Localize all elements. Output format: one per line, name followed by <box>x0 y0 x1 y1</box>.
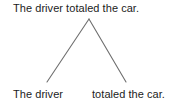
leaf-node-subject-label: The driver <box>13 88 63 100</box>
leaf-node-predicate-label: totaled the car. <box>92 88 165 100</box>
left-branch-line <box>47 19 89 82</box>
parse-tree-diagram: The driver totaled the car. The driver t… <box>0 0 185 109</box>
root-sentence-label: The driver totaled the car. <box>13 2 139 14</box>
right-branch-line <box>89 19 126 82</box>
